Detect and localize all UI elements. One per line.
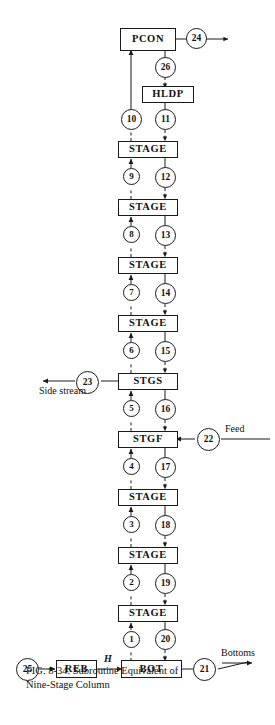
stream-node-3[interactable]: 3 [123,516,140,533]
stream-node-20[interactable]: 20 [155,629,176,650]
caption-line-2: Nine-Stage Column [26,678,266,692]
stream-node-19[interactable]: 19 [155,573,176,594]
box-stgs[interactable]: STGS [118,373,178,390]
stream-node-4[interactable]: 4 [123,458,140,475]
box-stage-9[interactable]: STAGE [118,141,178,158]
stream-node-18[interactable]: 18 [155,515,176,536]
stream-node-9[interactable]: 9 [123,168,140,185]
stream-node-17[interactable]: 17 [155,457,176,478]
stream-node-13[interactable]: 13 [155,225,176,246]
box-hldp[interactable]: HLDP [142,86,194,103]
box-stage-7[interactable]: STAGE [118,257,178,274]
stream-node-7[interactable]: 7 [123,284,140,301]
figure-caption: FIG. 8-34. Subroutine Equivalent of Nine… [26,664,266,692]
stream-node-15[interactable]: 15 [155,341,176,362]
box-stage-4[interactable]: STAGE [118,489,178,506]
stream-node-12[interactable]: 12 [155,167,176,188]
caption-line-1: FIG. 8-34. Subroutine Equivalent of [26,664,266,678]
box-pcon[interactable]: PCON [120,28,176,51]
figure-container: PCON HLDP STAGE STAGE STAGE STAGE STGS S… [0,0,275,725]
box-stgf[interactable]: STGF [118,431,178,448]
label-side-stream: Side stream [39,385,86,396]
label-bottoms: Bottoms [221,647,255,658]
label-feed: Feed [225,423,244,434]
box-stage-6[interactable]: STAGE [118,315,178,332]
stream-node-11[interactable]: 11 [155,109,176,130]
box-stage-3[interactable]: STAGE [118,547,178,564]
stream-node-22[interactable]: 22 [197,428,220,451]
label-enthalpy: H [104,653,112,664]
box-stage-2[interactable]: STAGE [118,605,178,622]
stream-node-2[interactable]: 2 [123,574,140,591]
stream-node-1[interactable]: 1 [123,631,140,648]
stream-node-26[interactable]: 26 [155,57,176,78]
stream-node-8[interactable]: 8 [123,226,140,243]
stream-node-16[interactable]: 16 [155,399,176,420]
stream-node-5[interactable]: 5 [123,400,140,417]
stream-node-14[interactable]: 14 [155,283,176,304]
stream-node-24[interactable]: 24 [186,28,207,49]
stream-node-6[interactable]: 6 [123,342,140,359]
box-stage-8[interactable]: STAGE [118,199,178,216]
stream-node-10[interactable]: 10 [121,109,142,130]
